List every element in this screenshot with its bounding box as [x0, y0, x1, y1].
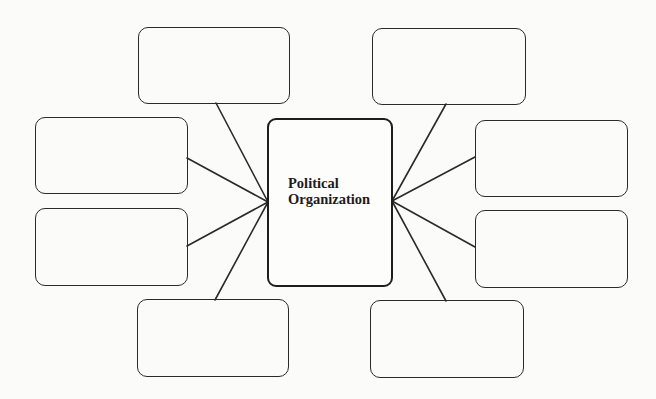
spider-diagram: Political Organization	[0, 0, 656, 399]
branch-box-left-lower[interactable]	[35, 208, 188, 286]
branch-box-top-right[interactable]	[372, 28, 526, 105]
branch-box-bottom-left[interactable]	[137, 299, 289, 377]
branch-box-right-lower[interactable]	[475, 210, 628, 288]
branch-box-left-upper[interactable]	[35, 117, 188, 194]
branch-box-top-left[interactable]	[138, 27, 290, 104]
center-topic-box: Political Organization	[267, 118, 393, 287]
branch-box-bottom-right[interactable]	[370, 300, 524, 378]
branch-box-right-upper[interactable]	[475, 120, 628, 197]
center-title-line-2: Organization	[288, 191, 370, 207]
center-title-line-1: Political	[288, 175, 370, 191]
center-topic-title: Political Organization	[288, 175, 370, 207]
